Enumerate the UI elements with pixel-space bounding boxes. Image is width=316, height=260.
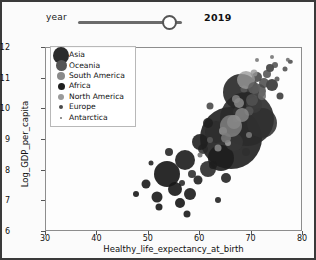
data-point-bubble[interactable] <box>133 191 139 197</box>
data-point-bubble[interactable] <box>203 118 213 128</box>
x-axis-tick-mark <box>199 231 200 235</box>
data-point-bubble[interactable] <box>246 132 252 138</box>
data-point-bubble[interactable] <box>246 94 258 106</box>
legend-marker-icon <box>53 105 69 109</box>
x-axis-tick-label: 50 <box>138 234 158 243</box>
y-axis-tick-label: 10 <box>0 104 10 113</box>
x-axis-label: Healthy_life_expectancy_at_birth <box>45 244 302 254</box>
x-axis-tick-label: 40 <box>86 234 106 243</box>
legend-marker-icon <box>53 60 69 71</box>
year-slider-handle[interactable] <box>162 15 177 30</box>
data-point-bubble[interactable] <box>175 198 185 208</box>
legend-item-label: South America <box>69 71 125 81</box>
data-point-bubble[interactable] <box>232 95 240 103</box>
chart-window: year 2019 6789101112304050607080 Log_GDP… <box>0 0 316 260</box>
legend-item-label: Africa <box>69 81 91 91</box>
x-axis-tick-mark <box>96 231 97 235</box>
y-axis-tick-label: 12 <box>0 43 10 52</box>
data-point-bubble[interactable] <box>168 182 182 196</box>
data-point-bubble[interactable] <box>207 103 214 110</box>
y-axis-label: Log_GDP_per_capita <box>20 59 30 229</box>
data-point-bubble[interactable] <box>156 204 163 211</box>
legend-item-asia[interactable]: Asia <box>53 50 132 60</box>
x-axis-tick-mark <box>251 231 252 235</box>
data-point-bubble[interactable] <box>207 137 213 143</box>
legend-item-label: Antarctica <box>69 113 108 123</box>
data-point-bubble[interactable] <box>221 133 231 143</box>
legend-item-label: Europe <box>69 102 96 112</box>
legend-item-label: North America <box>69 92 124 102</box>
data-point-bubble[interactable] <box>251 69 258 76</box>
legend-item-antarctica[interactable]: Antarctica <box>53 112 132 122</box>
y-axis-tick-label: 7 <box>0 196 10 205</box>
legend-marker-icon <box>53 72 69 80</box>
x-axis-tick-mark <box>148 231 149 235</box>
legend-item-africa[interactable]: Africa <box>53 81 132 91</box>
data-point-bubble[interactable] <box>198 153 203 158</box>
data-point-bubble[interactable] <box>270 55 274 59</box>
y-axis-tick-label: 9 <box>0 135 10 144</box>
data-point-bubble[interactable] <box>276 92 283 99</box>
data-point-bubble[interactable] <box>215 144 222 151</box>
year-slider-label: year <box>46 12 67 22</box>
legend-item-north-america[interactable]: North America <box>53 92 132 102</box>
data-point-bubble[interactable] <box>142 180 151 189</box>
data-point-bubble[interactable] <box>283 67 288 72</box>
legend-item-label: Asia <box>69 50 85 60</box>
x-axis-tick-label: 30 <box>35 234 55 243</box>
data-point-bubble[interactable] <box>209 161 217 169</box>
legend-marker-icon <box>53 83 69 90</box>
x-axis-tick-label: 60 <box>189 234 209 243</box>
continent-legend: AsiaOceaniaSouth AmericaAfricaNorth Amer… <box>50 46 136 127</box>
data-point-bubble[interactable] <box>275 76 280 81</box>
data-point-bubble[interactable] <box>263 70 271 78</box>
x-axis-tick-mark <box>302 231 303 235</box>
x-axis-tick-label: 80 <box>292 234 312 243</box>
y-axis-tick-label: 11 <box>0 73 10 82</box>
data-point-bubble[interactable] <box>184 210 191 217</box>
data-point-bubble[interactable] <box>192 134 208 150</box>
legend-item-south-america[interactable]: South America <box>53 71 132 81</box>
x-axis-tick-mark <box>45 231 46 235</box>
data-point-bubble[interactable] <box>215 197 221 203</box>
data-point-bubble[interactable] <box>184 188 196 200</box>
year-slider-control[interactable]: year 2019 <box>2 6 314 34</box>
data-point-bubble[interactable] <box>255 58 259 62</box>
data-point-bubble[interactable] <box>165 148 173 156</box>
data-point-bubble[interactable] <box>149 161 154 166</box>
y-axis-tick-label: 6 <box>0 227 10 236</box>
x-axis-tick-label: 70 <box>241 234 261 243</box>
data-point-bubble[interactable] <box>242 148 250 156</box>
data-point-bubble[interactable] <box>272 62 278 68</box>
data-point-bubble[interactable] <box>221 173 231 183</box>
year-slider-value: 2019 <box>204 12 232 23</box>
legend-item-oceania[interactable]: Oceania <box>53 60 132 70</box>
data-point-bubble[interactable] <box>151 191 162 202</box>
data-point-bubble[interactable] <box>193 175 202 184</box>
y-axis-tick-label: 8 <box>0 165 10 174</box>
data-point-bubble[interactable] <box>235 108 249 122</box>
legend-item-label: Oceania <box>69 61 100 71</box>
legend-item-europe[interactable]: Europe <box>53 102 132 112</box>
legend-marker-icon <box>53 94 69 100</box>
data-point-bubble[interactable] <box>259 78 269 88</box>
data-point-bubble[interactable] <box>258 92 266 100</box>
data-point-bubble[interactable] <box>175 150 195 170</box>
legend-marker-icon <box>53 117 69 119</box>
